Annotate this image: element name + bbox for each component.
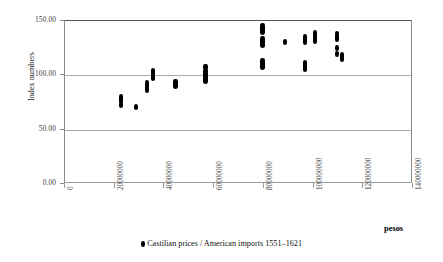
x-tick-label: 120000000 [365,158,373,190]
data-point [260,29,264,35]
data-point [145,87,149,93]
x-tick-mark [64,183,65,188]
x-tick-mark [362,183,363,188]
y-tick-label: 100.00 [4,69,56,78]
legend-entry-label: Castilian prices / American imports 1551… [147,239,302,248]
x-tick-label: 140000000 [415,158,423,190]
chart-screenshot: Index numbers 0.0050.00100.00150.00 0200… [0,0,443,262]
x-tick-label: 80000000 [266,161,274,190]
data-point [340,56,344,62]
x-tick-mark [263,183,264,188]
data-point [203,78,207,84]
y-tick-label: 50.00 [4,124,56,133]
data-point [303,39,307,45]
chart-legend: Castilian prices / American imports 1551… [0,239,443,248]
x-tick-label: 40000000 [166,161,174,190]
data-point [119,102,123,108]
gridline [65,75,411,76]
x-tick-mark [412,183,413,188]
x-tick-mark [163,183,164,188]
data-point [303,66,307,72]
gridline [65,130,411,131]
x-tick-label: 20000000 [117,161,125,190]
x-tick-label: 0 [67,186,75,190]
x-axis-title: pesos [384,224,403,233]
plot-area [64,20,412,183]
x-tick-mark [114,183,115,188]
data-point [313,38,317,44]
data-point [151,75,155,81]
data-point [134,104,138,110]
y-tick-label: 150.00 [4,15,56,24]
x-tick-mark [313,183,314,188]
data-point [260,42,264,48]
data-point [335,51,339,57]
data-point [335,36,339,42]
data-point [260,64,264,70]
x-tick-label: 60000000 [216,161,224,190]
data-point [283,39,287,45]
x-tick-label: 100000000 [316,158,324,190]
data-point [173,83,177,89]
y-tick-label: 0.00 [4,178,56,187]
x-tick-mark [213,183,214,188]
legend-diamond-icon [141,241,145,247]
